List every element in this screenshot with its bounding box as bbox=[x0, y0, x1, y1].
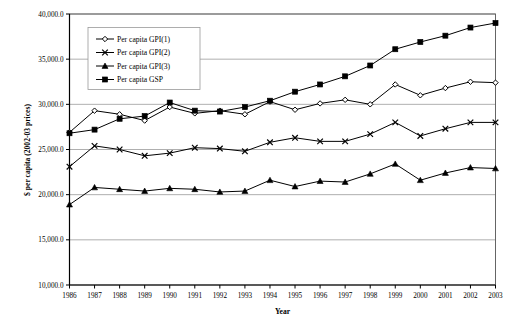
y-axis-title: $ per capita (2002-03 prices) bbox=[23, 104, 32, 196]
x-tick-label: 1995 bbox=[288, 292, 303, 300]
x-tick-label: 1991 bbox=[188, 292, 203, 300]
x-tick-label: 1990 bbox=[163, 292, 178, 300]
x-axis-title: Year bbox=[275, 307, 291, 316]
chart-legend: Per capita GPI(1)Per capita GPI(2)Per ca… bbox=[88, 28, 200, 90]
x-tick-label: 1992 bbox=[213, 292, 228, 300]
data-point bbox=[418, 40, 423, 45]
data-point bbox=[443, 33, 448, 38]
x-tick-label: 1997 bbox=[338, 292, 353, 300]
legend-label: Per capita GPI(1) bbox=[117, 35, 171, 44]
x-tick-label: 2001 bbox=[438, 292, 453, 300]
data-point bbox=[468, 25, 473, 30]
chart-container: 10,000.015,000.020,000.025,000.030,000.0… bbox=[0, 0, 515, 336]
data-point bbox=[167, 100, 172, 105]
data-point bbox=[217, 109, 222, 114]
x-tick-label: 1999 bbox=[388, 292, 403, 300]
x-tick-label: 2000 bbox=[413, 292, 428, 300]
data-point bbox=[393, 47, 398, 52]
x-tick-label: 2003 bbox=[488, 292, 503, 300]
y-tick-label: 20,000.0 bbox=[38, 191, 64, 199]
data-point bbox=[142, 114, 147, 119]
x-tick-label: 1994 bbox=[263, 292, 278, 300]
y-tick-label: 15,000.0 bbox=[38, 236, 64, 244]
y-tick-label: 10,000.0 bbox=[38, 282, 64, 290]
data-point bbox=[343, 74, 348, 79]
x-tick-label: 1993 bbox=[238, 292, 253, 300]
legend-label: Per capita GPI(3) bbox=[117, 62, 171, 71]
y-tick-label: 25,000.0 bbox=[38, 146, 64, 154]
x-tick-label: 1988 bbox=[112, 292, 127, 300]
legend-label: Per capita GSP bbox=[117, 75, 163, 84]
x-tick-label: 1996 bbox=[313, 292, 328, 300]
data-point bbox=[67, 131, 72, 136]
y-tick-label: 30,000.0 bbox=[38, 101, 64, 109]
data-point bbox=[293, 89, 298, 94]
legend-label: Per capita GPI(2) bbox=[117, 48, 171, 57]
data-point bbox=[242, 105, 247, 110]
data-point bbox=[267, 98, 272, 103]
x-tick-label: 1989 bbox=[137, 292, 152, 300]
y-tick-label: 40,000.0 bbox=[38, 11, 64, 19]
y-tick-label: 35,000.0 bbox=[38, 56, 64, 64]
data-point bbox=[117, 116, 122, 121]
data-point bbox=[318, 82, 323, 87]
x-tick-label: 2002 bbox=[463, 292, 478, 300]
data-point bbox=[92, 127, 97, 132]
data-point bbox=[493, 21, 498, 26]
data-point bbox=[368, 63, 373, 68]
data-point bbox=[192, 108, 197, 113]
x-tick-label: 1987 bbox=[87, 292, 102, 300]
line-chart: 10,000.015,000.020,000.025,000.030,000.0… bbox=[0, 0, 515, 336]
legend-marker bbox=[103, 77, 108, 82]
x-tick-label: 1986 bbox=[62, 292, 77, 300]
x-tick-label: 1998 bbox=[363, 292, 378, 300]
